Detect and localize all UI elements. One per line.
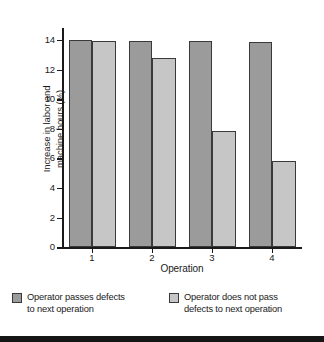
legend-label: Operator does not pass defects to next o… (184, 292, 282, 315)
y-axis-title: Increase in labor and machine hours (%) (16, 0, 91, 64)
plot-area: 02468101214 1234 (62, 28, 302, 249)
bar-series-2-category-1 (92, 41, 116, 248)
legend-swatch-icon (12, 293, 22, 303)
bar-series-2-category-3 (212, 131, 236, 247)
x-axis-title: Operation (62, 263, 302, 274)
bar-chart-figure: 02468101214 1234 Increase in labor and m… (0, 0, 324, 342)
legend-entry-1: Operator passes defects to next operatio… (12, 292, 155, 315)
x-tick-label: 4 (269, 253, 274, 263)
chart-legend: Operator passes defects to next operatio… (12, 292, 312, 315)
bar-series-1-category-4 (249, 42, 273, 247)
bar-series-1-category-1 (69, 40, 93, 248)
bar-series-2-category-4 (272, 161, 296, 247)
x-tick-label: 1 (89, 253, 94, 263)
bar-series-1-category-2 (129, 41, 153, 248)
bottom-band (0, 336, 324, 342)
y-tick-mark (57, 247, 62, 248)
legend-entry-2: Operator does not pass defects to next o… (169, 292, 312, 315)
y-tick-label: 0 (50, 243, 55, 253)
bar-series-1-category-3 (189, 41, 213, 247)
x-tick-label: 3 (209, 253, 214, 263)
legend-swatch-icon (169, 293, 179, 303)
y-axis-title-text: Increase in labor and machine hours (%) (41, 64, 66, 194)
legend-label: Operator passes defects to next operatio… (27, 292, 125, 315)
y-tick-label: 2 (50, 213, 55, 223)
x-axis-line (62, 247, 302, 249)
y-tick-mark (57, 218, 62, 219)
bar-series-2-category-2 (152, 58, 176, 248)
x-tick-label: 2 (149, 253, 154, 263)
